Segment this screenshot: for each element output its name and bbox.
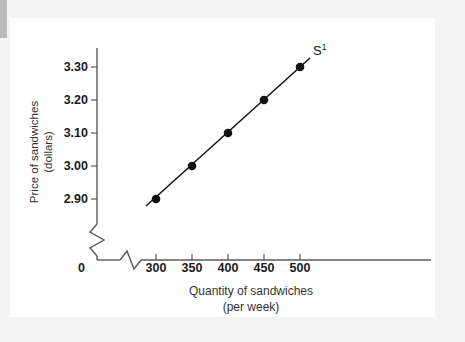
y-axis-title-main: Price of sandwiches xyxy=(28,101,40,203)
y-tick-label-320: 3.20 xyxy=(64,93,88,107)
x-tick-marks xyxy=(156,254,300,260)
y-tick-label-310: 3.10 xyxy=(64,126,88,140)
x-tick-label-400: 400 xyxy=(213,261,243,275)
y-tick-label-290: 2.90 xyxy=(64,192,88,206)
x-tick-label-500: 500 xyxy=(285,261,315,275)
y-tick-marks xyxy=(91,67,97,199)
x-tick-label-450: 450 xyxy=(249,261,279,275)
x-tick-label-350: 350 xyxy=(177,261,207,275)
data-point xyxy=(188,162,197,171)
origin-label: 0 xyxy=(78,261,85,275)
y-tick-label-330: 3.30 xyxy=(64,60,88,74)
curve-label-s1: S1 xyxy=(313,42,326,58)
page-edge-tab xyxy=(0,0,7,38)
y-axis-title-sub: (dollars) xyxy=(42,131,54,173)
data-point xyxy=(296,63,305,72)
x-axis-title-sub: (per week) xyxy=(223,300,280,314)
x-axis-title: Quantity of sandwiches (per week) xyxy=(106,283,396,315)
x-axis-title-main: Quantity of sandwiches xyxy=(189,284,313,298)
data-point xyxy=(260,96,269,105)
chart-card: 3.30 3.20 3.10 3.00 2.90 0 300 350 400 4… xyxy=(10,18,435,317)
data-point xyxy=(224,129,233,138)
y-tick-label-300: 3.00 xyxy=(64,159,88,173)
data-point xyxy=(152,195,161,204)
figure-page: 3.30 3.20 3.10 3.00 2.90 0 300 350 400 4… xyxy=(0,0,465,342)
y-axis-title: Price of sandwiches (dollars) xyxy=(24,72,58,232)
y-axis-break-icon xyxy=(90,224,104,256)
x-tick-label-300: 300 xyxy=(141,261,171,275)
curve-label-text: S xyxy=(313,43,322,58)
curve-label-superscript: 1 xyxy=(322,42,327,52)
x-axis-break-icon xyxy=(120,251,141,269)
